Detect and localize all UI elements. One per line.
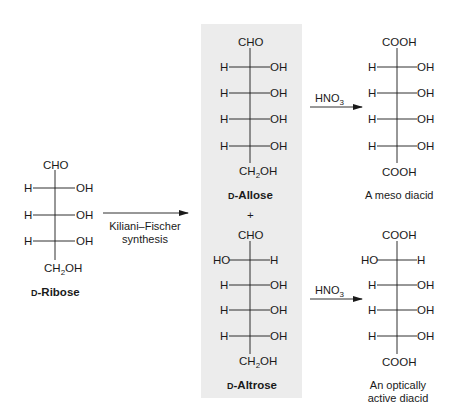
allose-c5-left: H	[220, 140, 228, 152]
active-caption-line-1: An optically	[370, 379, 427, 391]
allose-fischer-projection: CHO H OH H OH H OH H OH CH2OH D-Allose	[220, 36, 287, 201]
meso-top-group: COOH	[382, 36, 417, 48]
meso-c5-left: H	[368, 140, 376, 152]
active-c4-left: H	[368, 304, 376, 316]
allose-c3-left: H	[220, 87, 228, 99]
altrose-c2-right: H	[270, 254, 278, 266]
kiliani-fischer-step: Kiliani–Fischer synthesis	[103, 213, 188, 245]
active-c5-right: OH	[417, 330, 434, 342]
oxidation-step-top: HNO3	[310, 92, 362, 107]
altrose-c5-right: OH	[270, 330, 287, 342]
altrose-fischer-projection: CHO HO H H OH H OH H OH CH2OH D-Altrose	[213, 229, 287, 391]
altrose-bottom-group: CH2OH	[239, 355, 277, 370]
ribose-c2-left: H	[24, 182, 32, 194]
active-caption-line-2: active diacid	[368, 392, 429, 404]
ribose-c3-right: OH	[76, 209, 93, 221]
meso-c3-right: OH	[417, 87, 434, 99]
meso-c2-right: OH	[417, 61, 434, 73]
meso-caption: A meso diacid	[365, 189, 433, 201]
ribose-fischer-projection: CHO H OH H OH H OH CH2OH D-Ribose	[24, 159, 93, 298]
altrose-c3-right: OH	[270, 279, 287, 291]
meso-c4-left: H	[368, 113, 376, 125]
altrose-c5-left: H	[220, 330, 228, 342]
reagent-line-1: Kiliani–Fischer	[109, 220, 181, 232]
altrose-c4-right: OH	[270, 304, 287, 316]
ribose-c4-right: OH	[76, 235, 93, 247]
meso-c4-right: OH	[417, 113, 434, 125]
ribose-c4-left: H	[24, 235, 32, 247]
altrose-c4-left: H	[220, 304, 228, 316]
active-c5-left: H	[368, 330, 376, 342]
active-top-group: COOH	[382, 229, 417, 241]
ribose-c3-left: H	[24, 209, 32, 221]
active-c2-right: H	[417, 254, 425, 266]
hno3-reagent-bottom: HNO3	[315, 284, 344, 299]
active-c3-right: OH	[417, 279, 434, 291]
meso-c3-left: H	[368, 87, 376, 99]
altrose-top-group: CHO	[238, 229, 264, 241]
allose-c4-right: OH	[270, 113, 287, 125]
active-c2-left: HO	[361, 254, 378, 266]
ribose-top-group: CHO	[43, 159, 69, 171]
oxidation-step-bottom: HNO3	[310, 284, 362, 299]
altrose-c2-left: HO	[213, 254, 230, 266]
meso-bottom-group: COOH	[382, 166, 417, 178]
reaction-scheme: CHO H OH H OH H OH CH2OH D-Ribose Kilian…	[0, 0, 459, 419]
active-c4-right: OH	[417, 304, 434, 316]
allose-bottom-group: CH2OH	[239, 165, 277, 180]
ribose-c2-right: OH	[76, 182, 93, 194]
active-c3-left: H	[368, 279, 376, 291]
reagent-line-2: synthesis	[122, 233, 168, 245]
ribose-label: D-Ribose	[31, 286, 80, 298]
ribose-bottom-group: CH2OH	[44, 262, 82, 277]
meso-diacid-fischer-projection: COOH H OH H OH H OH H OH COOH A meso dia…	[365, 36, 434, 201]
allose-c4-left: H	[220, 113, 228, 125]
allose-top-group: CHO	[238, 36, 264, 48]
active-bottom-group: COOH	[382, 356, 417, 368]
allose-c2-left: H	[220, 61, 228, 73]
meso-c5-right: OH	[417, 140, 434, 152]
allose-c5-right: OH	[270, 140, 287, 152]
allose-c2-right: OH	[270, 61, 287, 73]
altrose-c3-left: H	[220, 279, 228, 291]
altrose-label: D-Altrose	[227, 379, 277, 391]
plus-sign: +	[247, 209, 254, 221]
allose-label: D-Allose	[228, 189, 273, 201]
hno3-reagent-top: HNO3	[315, 92, 344, 107]
allose-c3-right: OH	[270, 87, 287, 99]
meso-c2-left: H	[368, 61, 376, 73]
active-diacid-fischer-projection: COOH HO H H OH H OH H OH COOH An optical…	[361, 229, 434, 404]
